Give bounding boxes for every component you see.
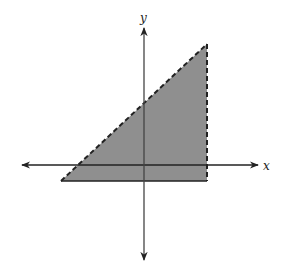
- coordinate-plane: x y: [0, 0, 291, 274]
- y-axis-label: y: [139, 11, 147, 25]
- x-axis-label: x: [263, 159, 270, 173]
